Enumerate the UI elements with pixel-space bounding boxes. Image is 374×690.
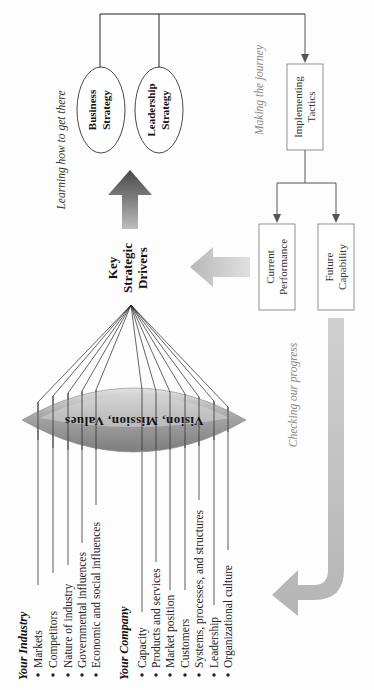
light-left-arrow [190,247,250,287]
caption-checking: Checking our progress [287,342,300,447]
implementing-tactics-box: Implementing Tactics [287,64,323,150]
company-item: Market position [164,595,177,677]
future-line-1: Future [323,253,335,282]
bullet-icon [168,673,171,676]
bullet-icon [51,673,54,676]
industry-item: Governmental influences [76,552,88,677]
industry-item-label: Nature of industry [62,583,75,668]
arrowhead-to-future [332,214,340,223]
key-strategic-drivers: Key Strategic Drivers [105,243,150,293]
implementing-line-2: Tactics [305,92,317,123]
industry-item: Markets [32,630,44,677]
company-item: Capacity [136,627,149,677]
diagram-canvas: Vision, Mission, Values Key Strategic Dr… [0,0,374,690]
industry-item: Economic and social influences [90,522,102,677]
leadership-strategy: Leadership Strategy [135,67,183,153]
company-heading: Your Company [117,606,131,680]
industry-item: Competitors [47,611,60,677]
implementing-line-1: Implementing [292,76,304,138]
industry-item-label: Governmental influences [76,552,88,668]
future-capability-box: Future Capability [318,224,354,310]
company-list: Your Company Capacity Products and servi… [117,509,235,680]
company-item-label: Products and services [150,568,162,668]
company-item: Products and services [150,568,162,677]
company-item-label: Systems, processes, and structures [193,509,206,668]
company-item-label: Capacity [136,627,149,668]
future-line-2: Capability [336,244,348,290]
bullet-icon [140,673,143,676]
current-line-1: Current [264,250,276,284]
top-bracket-connector [100,14,305,67]
current-line-2: Performance [277,239,289,295]
company-item: Leadership [208,617,221,677]
dark-up-arrow [108,170,152,229]
business-strategy-line-1: Business [86,89,98,130]
industry-list: Your Industry Markets Competitors Nature… [16,522,102,680]
bullet-icon [94,673,97,676]
current-performance-box: Current Performance [259,224,295,310]
leadership-strategy-line-2: Strategy [159,90,171,130]
company-item: Organizational culture [222,565,235,677]
business-strategy-line-2: Strategy [100,90,112,130]
company-item-label: Market position [164,595,177,668]
company-item-label: Leadership [208,617,221,668]
company-item-label: Organizational culture [222,565,235,668]
fork-connector [277,150,336,218]
lens-label: Vision, Mission, Values [65,414,204,429]
bullet-icon [212,673,215,676]
strategy-diagram: Vision, Mission, Values Key Strategic Dr… [0,0,374,690]
leadership-strategy-line-1: Leadership [145,83,157,136]
key-drivers-line-1: Key [105,256,120,279]
key-drivers-line-3: Drivers [135,247,150,289]
bullet-icon [66,673,69,676]
bullet-icon [183,673,186,676]
industry-item-label: Economic and social influences [90,522,102,668]
bullet-icon [226,673,229,676]
industry-item-label: Markets [32,630,44,668]
industry-heading: Your Industry [16,611,30,680]
bullet-icon [197,673,200,676]
bullet-icon [80,673,83,676]
bullet-icon [154,673,157,676]
arrowhead-to-current [273,214,281,223]
u-turn-arrow [272,318,344,616]
caption-learning: Learning how to get there [55,90,68,210]
industry-item-label: Competitors [47,611,60,668]
key-drivers-line-2: Strategic [120,243,135,293]
arrowhead-to-implementing [301,54,309,63]
industry-item: Nature of industry [62,583,75,676]
company-item-label: Customers [179,618,191,668]
company-item: Systems, processes, and structures [193,509,206,676]
company-item: Customers [179,618,191,676]
bullet-icon [36,673,39,676]
caption-making: Making the journey [253,44,266,136]
business-strategy: Business Strategy [77,67,125,153]
